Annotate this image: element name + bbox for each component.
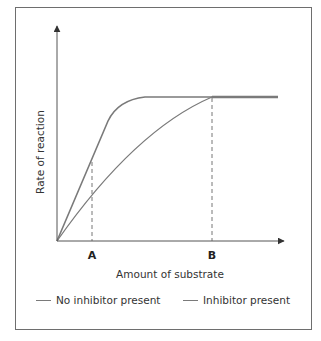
legend-line-icon	[36, 300, 51, 301]
legend-line-icon	[183, 300, 198, 301]
chart-plot	[0, 0, 321, 341]
curve-inhibitor	[57, 97, 278, 241]
marker-b-label: B	[208, 249, 216, 262]
curve-no-inhibitor	[57, 97, 278, 241]
marker-a-label: A	[88, 249, 97, 262]
legend-item-inhibitor: Inhibitor present	[183, 294, 290, 306]
legend-label: No inhibitor present	[56, 294, 160, 306]
y-axis-label: Rate of reaction	[34, 110, 46, 194]
legend-label: Inhibitor present	[203, 294, 290, 306]
legend-item-no-inhibitor: No inhibitor present	[36, 294, 160, 306]
x-axis-label: Amount of substrate	[116, 268, 224, 280]
